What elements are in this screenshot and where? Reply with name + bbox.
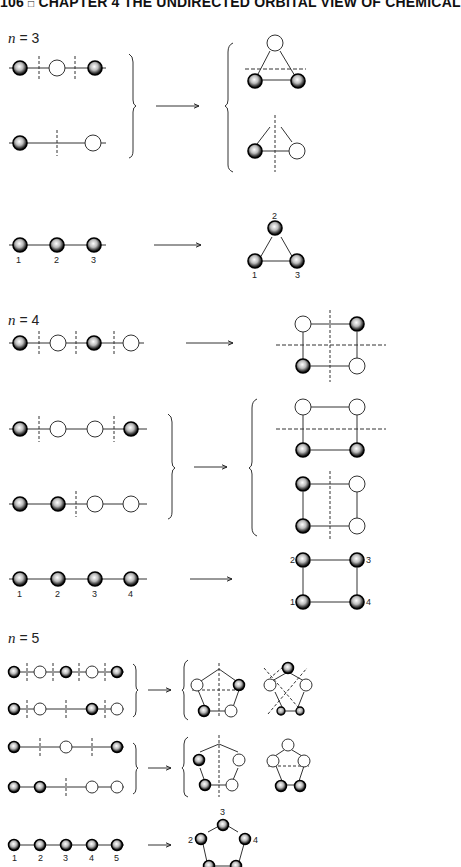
- n4-numbered-chain: [9, 572, 147, 586]
- svg-text:3: 3: [92, 589, 97, 599]
- n5-ring-a2: [264, 663, 312, 716]
- n4-numbered-ring: [296, 553, 364, 609]
- svg-text:2: 2: [55, 589, 60, 599]
- svg-text:3: 3: [63, 853, 68, 863]
- svg-text:1: 1: [252, 270, 257, 280]
- svg-text:1: 1: [12, 853, 17, 863]
- svg-text:3: 3: [366, 555, 371, 565]
- n4-ring-b: [276, 399, 386, 457]
- n4-chain-b: [9, 416, 147, 442]
- n3-chain-b: [9, 130, 106, 156]
- n4-chain-c: [9, 491, 147, 517]
- svg-text:3: 3: [295, 270, 300, 280]
- n5-chain-a: [9, 663, 125, 681]
- svg-text:3: 3: [220, 807, 225, 817]
- n4-chain-a: [9, 331, 144, 356]
- svg-text:2: 2: [38, 853, 43, 863]
- left-brace-n4: [249, 399, 257, 536]
- n4-ring-a: [276, 310, 386, 382]
- svg-text:2: 2: [290, 555, 295, 565]
- svg-text:2: 2: [188, 835, 193, 845]
- n5-ring-a1: [191, 663, 245, 718]
- n4-ring-c: [296, 471, 365, 540]
- right-brace-n4: [168, 414, 175, 519]
- svg-text:2: 2: [54, 255, 59, 265]
- svg-text:4: 4: [253, 835, 258, 845]
- svg-text:2: 2: [272, 211, 277, 221]
- left-brace-n5-a: [182, 660, 188, 720]
- right-brace-n3: [129, 54, 136, 158]
- svg-text:4: 4: [89, 853, 94, 863]
- n5-ring-b2: [267, 739, 310, 792]
- right-brace-n5-b: [133, 743, 138, 794]
- n5-numbered-chain: [9, 840, 125, 851]
- left-brace-n3: [225, 43, 233, 172]
- svg-text:1: 1: [16, 255, 21, 265]
- n5-numbered-ring: [196, 820, 251, 867]
- n3-ring-b: [248, 115, 305, 172]
- n5-chain-c: [9, 738, 125, 756]
- svg-text:3: 3: [91, 255, 96, 265]
- n5-chain-b: [9, 700, 125, 718]
- n3-chain-a: [9, 56, 106, 81]
- atom-numbers: 1 2 3 2 1 3 1 2 3 4 2 3 1 4 1 2 3 4 5 3 …: [12, 211, 371, 863]
- svg-text:1: 1: [290, 597, 295, 607]
- svg-text:4: 4: [128, 589, 133, 599]
- svg-text:1: 1: [17, 589, 22, 599]
- left-brace-n5-b: [182, 737, 188, 797]
- right-brace-n5-a: [133, 664, 138, 717]
- n5-chain-d: [9, 778, 125, 796]
- n3-numbered-ring: [248, 221, 304, 268]
- n3-ring-a: [245, 35, 306, 88]
- n5-ring-b1: [194, 735, 246, 797]
- n3-numbered-chain: [9, 238, 106, 252]
- svg-text:5: 5: [114, 853, 119, 863]
- svg-text:4: 4: [366, 597, 371, 607]
